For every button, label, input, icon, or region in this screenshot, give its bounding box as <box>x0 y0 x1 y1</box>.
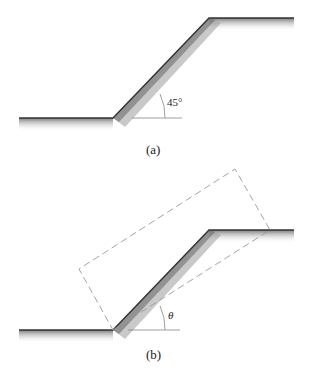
ground-profile <box>19 230 294 330</box>
caption-a: (a) <box>146 143 160 156</box>
figure-b <box>19 169 294 343</box>
angle-label-a: 45° <box>167 97 182 108</box>
ground-shading <box>19 18 294 131</box>
figure-a <box>19 18 294 131</box>
slope-diagram <box>0 0 315 371</box>
ground-profile <box>19 18 294 118</box>
dashed-failure-block <box>79 169 270 330</box>
angle-arc <box>160 306 165 330</box>
ground-shading <box>19 230 294 343</box>
angle-label-b: θ <box>168 310 173 321</box>
angle-arc <box>160 94 165 118</box>
caption-b: (b) <box>146 348 161 361</box>
